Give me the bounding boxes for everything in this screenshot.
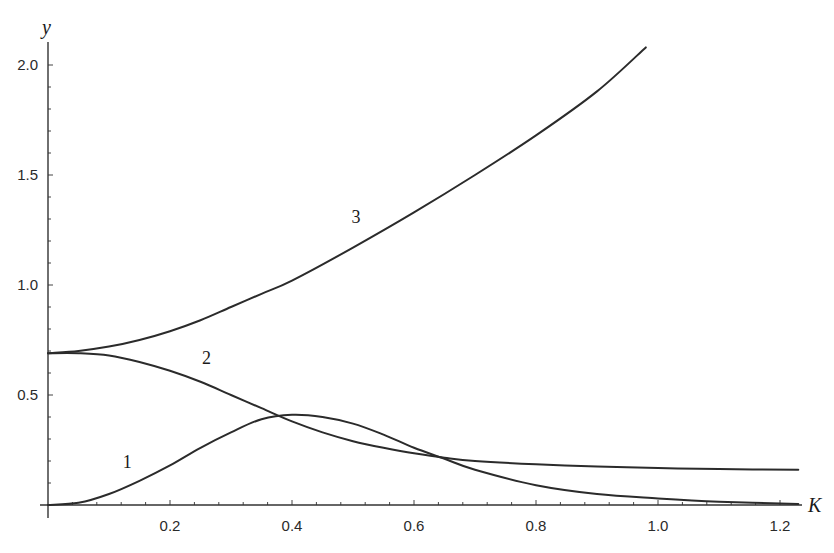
figure-caption-clipped [60,546,580,553]
y-axis-title: y [40,16,51,39]
major-ticks [48,65,780,505]
y-tick-label: 0.5 [17,386,38,403]
x-tick-label: 0.4 [282,517,303,534]
curve-1-label: 1 [123,452,132,472]
x-axis-title: K [807,494,823,516]
x-tick-label: 0.2 [160,517,181,534]
x-tick-labels: 0.2 0.4 0.6 0.8 1.0 1.2 [160,517,791,534]
x-tick-label: 0.8 [526,517,547,534]
curve-3-label: 3 [352,207,361,227]
x-tick-label: 0.6 [404,517,425,534]
curve-2-label: 2 [202,348,211,368]
x-tick-label: 1.0 [648,517,669,534]
x-tick-label: 1.2 [770,517,791,534]
curves [48,47,798,505]
y-tick-label: 1.5 [17,166,38,183]
curve-3-line [48,47,646,353]
line-chart: 0.2 0.4 0.6 0.8 1.0 1.2 0.5 1.0 1.5 2.0 … [0,0,834,553]
y-tick-label: 2.0 [17,56,38,73]
y-tick-labels: 0.5 1.0 1.5 2.0 [17,56,38,403]
curve-labels: 1 2 3 [123,207,361,471]
curve-1-line [48,415,798,505]
y-tick-label: 1.0 [17,276,38,293]
